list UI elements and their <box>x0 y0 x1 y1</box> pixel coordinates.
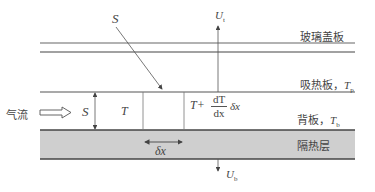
solar-radiation-label: S <box>112 11 119 27</box>
outlet-temp-label: T+ <box>190 98 205 113</box>
airflow-arrow <box>40 107 71 118</box>
element-width-label: δx <box>155 144 166 159</box>
airflow-label: 气流 <box>6 106 28 122</box>
inlet-temp-label: T <box>121 104 128 119</box>
bottom-loss-label: Ub <box>226 168 237 183</box>
insulation-label: 隔热层 <box>297 137 330 153</box>
temperature-derivative: dT dx <box>211 94 227 119</box>
back-plate-label: 背板，Tb <box>297 111 340 129</box>
top-loss-label: Ut <box>215 9 225 24</box>
glass-cover-label: 玻璃盖板 <box>300 28 344 44</box>
solar-radiation-arrow <box>116 27 162 89</box>
gap-label: S <box>82 104 89 120</box>
derivative-suffix: δx <box>230 100 240 112</box>
absorber-plate-label: 吸热板，Tp <box>300 76 354 94</box>
